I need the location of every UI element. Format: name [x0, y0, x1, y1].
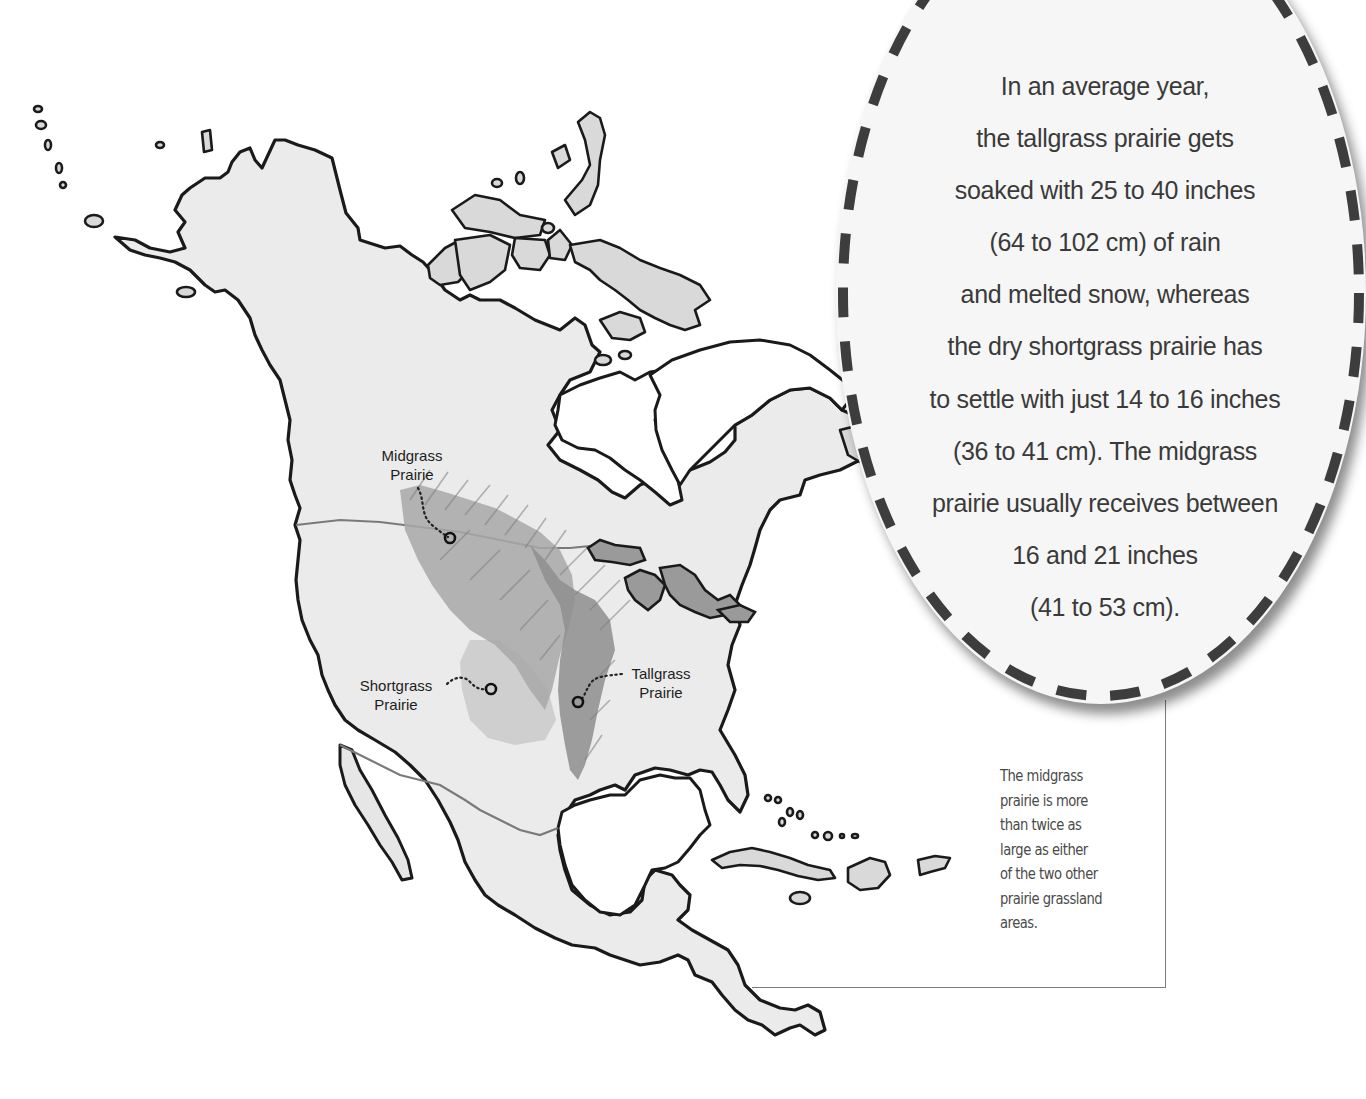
tallgrass-prairie-label: Tallgrass Prairie [622, 664, 700, 702]
shortgrass-label-line-1: Shortgrass [348, 676, 444, 695]
midgrass-prairie-label: Midgrass Prairie [370, 446, 454, 484]
callout-line: the dry shortgrass prairie has [900, 320, 1310, 372]
tallgrass-label-line-1: Tallgrass [622, 664, 700, 683]
callout-line: In an average year, [900, 60, 1310, 112]
callout-line: to settle with just 14 to 16 inches [900, 373, 1310, 425]
midgrass-size-note: The midgrass prairie is more than twice … [1000, 764, 1131, 936]
shortgrass-prairie-label: Shortgrass Prairie [348, 676, 444, 714]
note-line: prairie grassland [1000, 887, 1131, 912]
note-line: The midgrass [1000, 764, 1131, 789]
callout-line: the tallgrass prairie gets [900, 112, 1310, 164]
midgrass-label-line-2: Prairie [370, 465, 454, 484]
callout-line: prairie usually receives between [900, 477, 1310, 529]
shortgrass-label-line-2: Prairie [348, 695, 444, 714]
callout-line: 16 and 21 inches [900, 529, 1310, 581]
midgrass-label-line-1: Midgrass [370, 446, 454, 465]
baja-california [340, 745, 412, 880]
callout-line: (36 to 41 cm). The midgrass [900, 425, 1310, 477]
note-line: large as either [1000, 838, 1131, 863]
callout-line: (41 to 53 cm). [900, 581, 1310, 633]
callout-line: soaked with 25 to 40 inches [900, 164, 1310, 216]
tallgrass-label-line-2: Prairie [622, 683, 700, 702]
note-line: of the two other [1000, 862, 1131, 887]
note-line: than twice as [1000, 813, 1131, 838]
callout-line: and melted snow, whereas [900, 268, 1310, 320]
callout-line: (64 to 102 cm) of rain [900, 216, 1310, 268]
rainfall-callout-text: In an average year, the tallgrass prairi… [900, 60, 1310, 633]
note-line: areas. [1000, 911, 1131, 936]
note-line: prairie is more [1000, 789, 1131, 814]
